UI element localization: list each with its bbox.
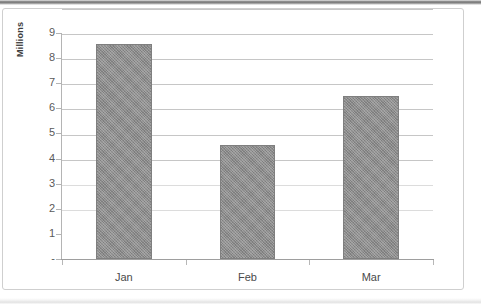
bar-feb[interactable] [220,145,276,259]
y-axis-tick [56,58,61,59]
y-axis-tick-label: 6 [25,102,55,113]
y-axis-tick-label: 9 [25,27,55,38]
y-axis-tick-label: 8 [25,52,55,63]
y-axis-tick [56,259,61,260]
x-axis-tick [309,260,310,265]
scan-artifact-bottom [0,298,481,304]
y-axis-tick-label: 4 [25,153,55,164]
y-axis-tick-label: 3 [25,178,55,189]
x-axis-category-label: Mar [362,271,381,283]
y-axis-tick-label: 2 [25,203,55,214]
y-axis-tick [56,133,61,134]
y-axis-tick [56,209,61,210]
x-axis-tick [186,260,187,265]
y-axis-tick-labels: 987654321- [17,9,55,291]
scan-artifact-top [0,0,481,5]
bar-jan[interactable] [96,44,152,259]
y-axis-tick-label: 1 [25,228,55,239]
y-axis-tick [56,33,61,34]
category-axis-line [61,259,434,260]
x-axis-tick [433,260,434,265]
y-axis-tick [56,159,61,160]
gridline [62,9,433,10]
y-axis-tick [56,83,61,84]
y-axis-tick-label: 7 [25,77,55,88]
bar-mar[interactable] [343,96,399,259]
plot-area [62,33,433,259]
y-axis-tick [56,108,61,109]
x-axis-category-label: Jan [115,271,133,283]
y-axis-tick [56,184,61,185]
y-axis-tick-label: 5 [25,127,55,138]
y-axis-tick [56,234,61,235]
x-axis-tick [62,260,63,265]
x-axis-category-label: Feb [238,271,257,283]
chart-frame: Millions 987654321- JanFebMar [2,8,464,290]
y-axis-tick-label: - [25,253,55,264]
